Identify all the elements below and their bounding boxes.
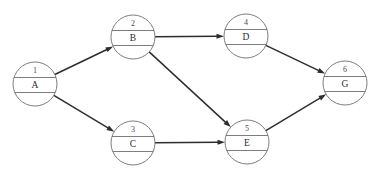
edge-d-to-g (266, 45, 325, 73)
node-label: A (32, 80, 39, 90)
edge-e-to-g (266, 94, 326, 130)
node-g[interactable]: 6G (323, 61, 367, 105)
network-graph: 1A2B3C4D5E6G (0, 0, 375, 172)
node-a[interactable]: 1A (13, 62, 57, 106)
edge-shaft (54, 95, 109, 128)
edges-layer (54, 34, 326, 145)
node-number: 1 (33, 66, 37, 75)
node-number: 3 (131, 125, 135, 134)
arrowhead-icon (105, 47, 113, 53)
node-label: B (130, 33, 136, 43)
node-d[interactable]: 4D (224, 14, 268, 58)
arrowhead-icon (106, 126, 114, 132)
node-number: 5 (245, 124, 249, 133)
node-e[interactable]: 5E (225, 120, 269, 164)
node-c[interactable]: 3C (111, 121, 155, 165)
node-number: 2 (131, 19, 135, 28)
arrowhead-icon (317, 68, 325, 74)
edge-shaft (155, 36, 218, 37)
node-label: D (243, 32, 250, 42)
node-label: C (130, 139, 136, 149)
edge-shaft (266, 98, 321, 131)
edge-c-to-e (155, 140, 225, 145)
arrowhead-icon (217, 140, 225, 145)
node-b[interactable]: 2B (111, 15, 155, 59)
diagram-canvas: 1A2B3C4D5E6G (0, 0, 375, 172)
node-number: 4 (244, 18, 248, 27)
edge-b-to-d (155, 34, 224, 39)
node-label: E (244, 138, 250, 148)
arrowhead-icon (318, 94, 326, 100)
edge-b-to-e (149, 52, 231, 127)
node-number: 6 (343, 65, 347, 74)
edge-a-to-c (54, 95, 114, 131)
edge-shaft (149, 52, 226, 123)
node-label: G (342, 79, 349, 89)
arrowhead-icon (216, 34, 224, 39)
edge-shaft (55, 49, 108, 74)
edge-a-to-b (55, 47, 113, 75)
edge-shaft (266, 45, 320, 70)
edge-shaft (155, 142, 219, 143)
